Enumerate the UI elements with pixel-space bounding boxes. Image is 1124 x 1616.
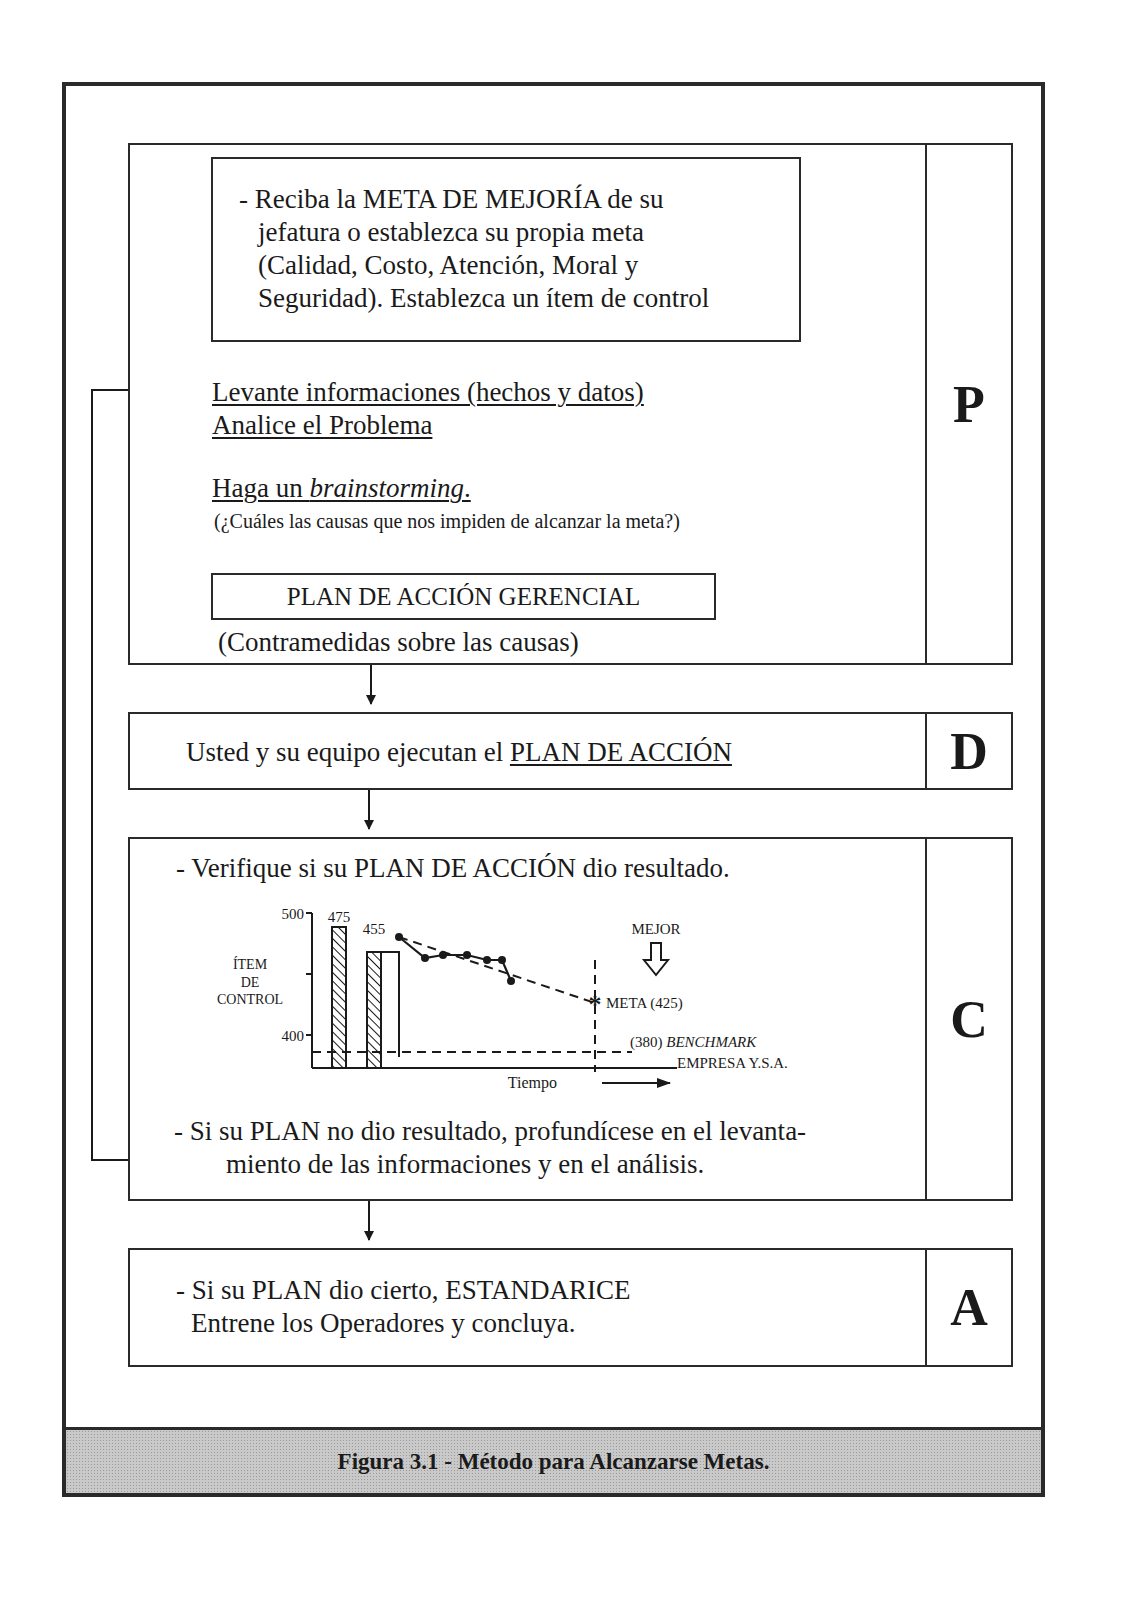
act-box: A - Si su PLAN dio cierto, ESTANDARICE E… bbox=[128, 1248, 1013, 1367]
do-letter: D bbox=[925, 714, 1011, 788]
figure-caption: Figura 3.1 - Método para Alcanzarse Meta… bbox=[62, 1427, 1045, 1497]
action-plan-note: (Contramedidas sobre las causas) bbox=[218, 626, 579, 659]
goal-line-3: (Calidad, Costo, Atención, Moral y bbox=[258, 249, 638, 282]
bar-475 bbox=[332, 927, 346, 1068]
brainstorm-suffix: . bbox=[464, 473, 471, 503]
step-brainstorm: Haga un brainstorming. bbox=[212, 472, 471, 505]
hollow-down-arrow-icon bbox=[644, 943, 668, 975]
act-letter: A bbox=[925, 1250, 1011, 1365]
action-plan-label: PLAN DE ACCIÓN GERENCIAL bbox=[287, 580, 640, 613]
y-label-line-3: CONTROL bbox=[217, 992, 283, 1007]
check-fail-line-2: miento de las informaciones y en el anál… bbox=[226, 1148, 704, 1181]
brainstorm-prefix: Haga un bbox=[212, 473, 309, 503]
goal-line-1: - Reciba la META DE MEJORÍA de su bbox=[239, 183, 664, 216]
do-text-action-plan: PLAN DE ACCIÓN bbox=[510, 737, 732, 767]
check-letter: C bbox=[925, 839, 1011, 1199]
goal-line-2: jefatura o establezca su propia meta bbox=[258, 216, 644, 249]
step-analyze-problem: Analice el Problema bbox=[212, 409, 432, 442]
x-label: Tiempo bbox=[508, 1074, 557, 1092]
y-tick-400: 400 bbox=[282, 1028, 305, 1044]
brainstorm-question: (¿Cuáles las causas que nos impiden de a… bbox=[214, 509, 680, 533]
meta-asterisk-icon: * bbox=[589, 990, 602, 1019]
act-line-2: Entrene los Operadores y concluya. bbox=[191, 1307, 576, 1340]
control-chart: 500 400 ÍTEM DE CONTROL 475 455 * META (… bbox=[200, 900, 840, 1100]
svg-text:475: 475 bbox=[328, 909, 351, 925]
y-label-line-1: ÍTEM bbox=[233, 956, 268, 972]
check-verify-text: - Verifique si su PLAN DE ACCIÓN dio res… bbox=[176, 852, 730, 885]
brainstorm-italic: brainstorming bbox=[309, 473, 464, 503]
y-label-line-2: DE bbox=[241, 975, 260, 990]
svg-text:455: 455 bbox=[363, 921, 386, 937]
do-text: Usted y su equipo ejecutan el PLAN DE AC… bbox=[186, 736, 732, 769]
trend-line bbox=[399, 937, 595, 1003]
goal-line-4: Seguridad). Establezca un ítem de contro… bbox=[258, 282, 709, 315]
bar-455 bbox=[367, 952, 381, 1068]
benchmark-sublabel: EMPRESA Y.S.A. bbox=[677, 1055, 788, 1071]
action-plan-box: PLAN DE ACCIÓN GERENCIAL bbox=[211, 573, 716, 620]
step-collect-info: Levante informaciones (hechos y datos) bbox=[212, 376, 644, 409]
meta-label: META (425) bbox=[606, 995, 683, 1012]
do-text-prefix: Usted y su equipo ejecutan el bbox=[186, 737, 510, 767]
check-fail-line-1: - Si su PLAN no dio resultado, profundíc… bbox=[174, 1115, 806, 1148]
y-tick-500: 500 bbox=[282, 906, 305, 922]
goal-box: - Reciba la META DE MEJORÍA de su jefatu… bbox=[211, 157, 801, 342]
benchmark-label: (380) BENCHMARK bbox=[630, 1034, 757, 1051]
do-box: D Usted y su equipo ejecutan el PLAN DE … bbox=[128, 712, 1013, 790]
act-line-1: - Si su PLAN dio cierto, ESTANDARICE bbox=[176, 1274, 631, 1307]
plan-letter: P bbox=[925, 145, 1011, 663]
mejor-label: MEJOR bbox=[631, 921, 680, 937]
